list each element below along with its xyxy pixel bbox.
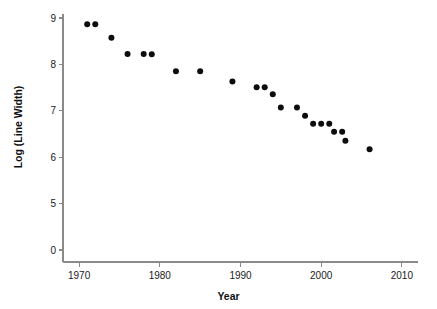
y-tick-label: 5 [50, 198, 56, 209]
y-tick-label: 8 [50, 59, 56, 70]
x-tick-label: 1970 [68, 270, 91, 281]
y-tick-label: 7 [50, 105, 56, 116]
data-point [141, 51, 147, 57]
x-axis-title: Year [217, 290, 239, 302]
y-tick-label: 9 [50, 13, 56, 24]
data-point [339, 129, 345, 135]
x-tick-label: 2000 [310, 270, 333, 281]
x-tick-label: 2010 [391, 270, 414, 281]
scatter-chart-figure: 98765019701980199020002010YearLog (Line … [0, 0, 437, 309]
data-point [342, 138, 348, 144]
data-point [318, 121, 324, 127]
data-point [84, 21, 90, 27]
data-point [302, 113, 308, 119]
data-point [331, 129, 337, 135]
data-point [278, 105, 284, 111]
data-point [125, 51, 131, 57]
data-point [92, 21, 98, 27]
data-point [326, 121, 332, 127]
x-tick-label: 1990 [229, 270, 252, 281]
data-point [310, 121, 316, 127]
data-point [149, 51, 155, 57]
data-point [173, 68, 179, 74]
x-tick-label: 1980 [149, 270, 172, 281]
data-point [197, 68, 203, 74]
chart-canvas: 98765019701980199020002010YearLog (Line … [0, 0, 437, 309]
data-point [229, 78, 235, 84]
y-tick-label: 6 [50, 152, 56, 163]
y-tick-label: 0 [50, 245, 56, 256]
data-point [367, 146, 373, 152]
y-axis-title: Log (Line Width) [12, 86, 24, 169]
data-point [270, 91, 276, 97]
data-point [254, 84, 260, 90]
data-point-group [84, 21, 372, 152]
data-point [294, 105, 300, 111]
data-point [108, 35, 114, 41]
data-point [262, 84, 268, 90]
